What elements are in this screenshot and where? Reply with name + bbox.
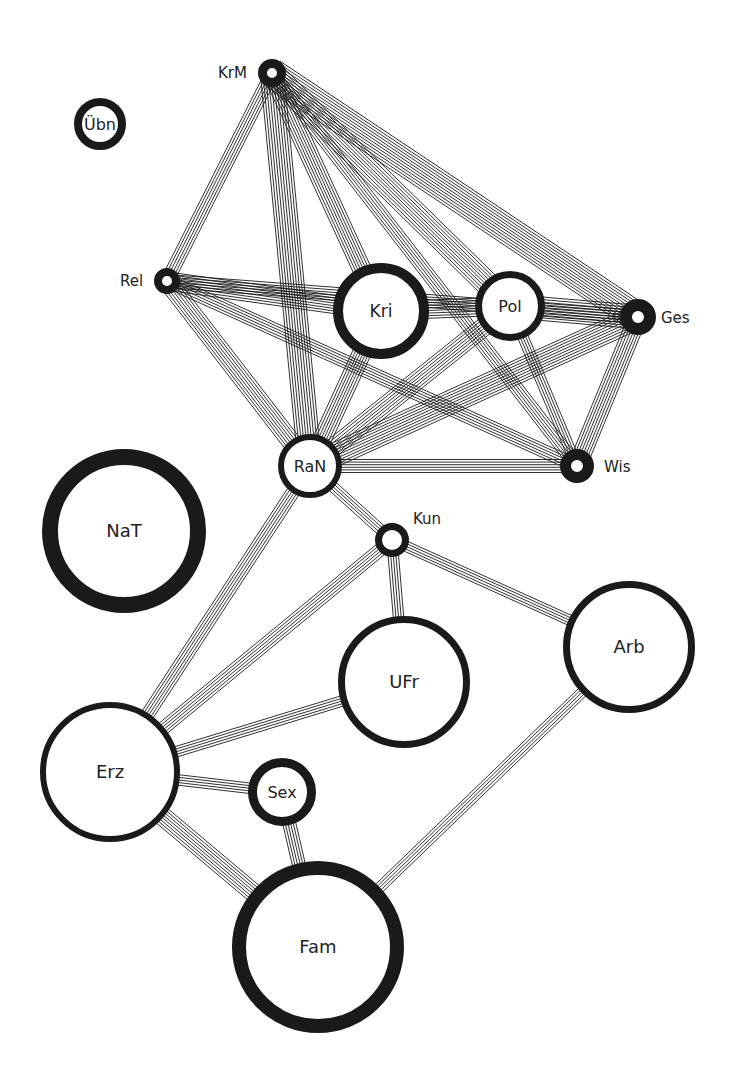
node-nat: NaT bbox=[50, 457, 198, 605]
edge-krm-rel bbox=[161, 70, 278, 284]
node-label: NaT bbox=[106, 520, 142, 541]
node-label: Erz bbox=[96, 761, 124, 782]
node-fam: Fam bbox=[239, 868, 397, 1026]
node-kri: Kri bbox=[338, 268, 424, 354]
node-kun: Kun bbox=[379, 510, 442, 554]
node-label: Pol bbox=[498, 297, 521, 316]
node-sex: Sex bbox=[253, 763, 312, 822]
node-label: KrM bbox=[218, 64, 247, 82]
node-krm: KrM bbox=[218, 64, 282, 83]
node-ufr: UFr bbox=[342, 620, 467, 745]
node-label: Rel bbox=[120, 272, 143, 290]
node-ring bbox=[379, 527, 406, 554]
node-ubn: Übn bbox=[78, 102, 122, 146]
node-label: Kun bbox=[413, 510, 441, 528]
node-label: Wis bbox=[604, 458, 631, 476]
node-label: Ges bbox=[661, 309, 690, 327]
node-label: Kri bbox=[370, 301, 393, 321]
node-label: RaN bbox=[294, 457, 327, 476]
node-ges: Ges bbox=[626, 305, 690, 329]
node-ring bbox=[263, 64, 282, 83]
node-arb: Arb bbox=[567, 585, 692, 710]
node-ring bbox=[566, 455, 589, 478]
edge-ran-wis bbox=[310, 460, 577, 473]
node-pol: Pol bbox=[479, 275, 542, 338]
node-rel: Rel bbox=[120, 272, 176, 290]
node-erz: Erz bbox=[43, 705, 177, 839]
node-label: Sex bbox=[267, 783, 296, 802]
node-label: Fam bbox=[299, 936, 336, 957]
node-label: Arb bbox=[613, 636, 644, 657]
edge-ges-wis bbox=[569, 314, 647, 470]
node-ring bbox=[158, 272, 176, 290]
node-label: UFr bbox=[389, 671, 419, 692]
node-label: Übn bbox=[84, 115, 116, 134]
node-wis: Wis bbox=[566, 455, 631, 478]
network-diagram: KrMÜbnRelKriPolGesRaNWisNaTKunUFrArbErzS… bbox=[0, 0, 737, 1084]
node-ring bbox=[626, 305, 650, 329]
node-layer: KrMÜbnRelKriPolGesRaNWisNaTKunUFrArbErzS… bbox=[43, 64, 692, 1027]
node-ran: RaN bbox=[281, 437, 339, 495]
